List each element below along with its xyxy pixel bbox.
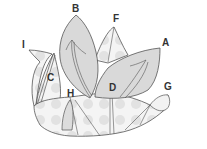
label-b: B bbox=[72, 4, 79, 14]
petal-f bbox=[95, 27, 128, 63]
base-bowl bbox=[34, 93, 169, 136]
label-d: D bbox=[109, 83, 116, 93]
label-c: C bbox=[47, 73, 54, 83]
label-i: I bbox=[22, 40, 25, 50]
lotus-diagram bbox=[0, 0, 207, 149]
label-f: F bbox=[113, 14, 119, 24]
petal-b bbox=[60, 15, 98, 98]
label-h: H bbox=[67, 89, 74, 99]
label-g: G bbox=[164, 82, 172, 92]
label-a: A bbox=[162, 38, 169, 48]
